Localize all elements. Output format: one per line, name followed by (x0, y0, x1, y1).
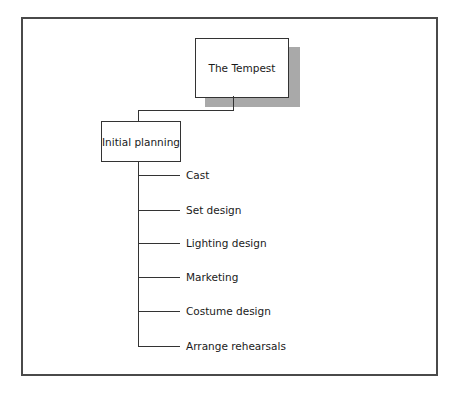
task-branch-line (138, 277, 180, 278)
root-node-label: The Tempest (209, 62, 276, 74)
task-label-marketing: Marketing (186, 271, 238, 283)
task-branch-line (138, 243, 180, 244)
task-label-lighting-design: Lighting design (186, 237, 267, 249)
task-branch-line (138, 311, 180, 312)
connector-root-horizontal (138, 110, 234, 111)
task-label-cast: Cast (186, 169, 209, 181)
task-label-arrange-rehearsals: Arrange rehearsals (186, 340, 286, 352)
phase-node: Initial planning (101, 121, 181, 162)
task-branch-line (138, 346, 180, 347)
task-trunk-line (138, 161, 139, 347)
task-label-costume-design: Costume design (186, 305, 271, 317)
task-branch-line (138, 210, 180, 211)
root-node: The Tempest (195, 38, 289, 98)
phase-node-label: Initial planning (102, 136, 180, 148)
task-label-set-design: Set design (186, 204, 241, 216)
connector-phase-down (138, 110, 139, 121)
connector-root-down (233, 96, 234, 111)
task-branch-line (138, 175, 180, 176)
